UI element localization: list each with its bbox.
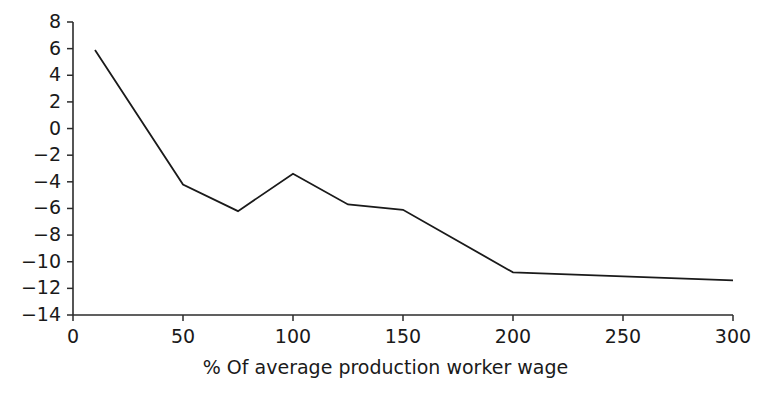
x-tick-label: 300 [693, 327, 771, 346]
y-tick-label: 4 [0, 65, 61, 84]
y-tick-label: 0 [0, 119, 61, 138]
y-tick-label: −8 [0, 225, 61, 244]
x-tick-label: 150 [363, 327, 443, 346]
y-tick-label: −10 [0, 252, 61, 271]
y-tick-label: −6 [0, 198, 61, 217]
y-tick-label: 8 [0, 12, 61, 31]
chart-container: 86420−2−4−6−8−10−12−14 05010015020025030… [0, 0, 771, 403]
y-tick-label: −12 [0, 278, 61, 297]
y-tick-label: 2 [0, 92, 61, 111]
data-series-group [95, 50, 733, 280]
y-tick-label: 6 [0, 39, 61, 58]
x-axis-title: % Of average production worker wage [0, 358, 771, 377]
y-tick-label: −14 [0, 305, 61, 324]
x-axis-ticks [73, 315, 733, 321]
x-tick-label: 0 [33, 327, 113, 346]
x-tick-label: 250 [583, 327, 663, 346]
y-tick-label: −4 [0, 172, 61, 191]
y-tick-label: −2 [0, 145, 61, 164]
data-line-series-0 [95, 50, 733, 280]
x-tick-label: 200 [473, 327, 553, 346]
x-tick-label: 100 [253, 327, 333, 346]
x-tick-label: 50 [143, 327, 223, 346]
y-axis-ticks [67, 22, 73, 315]
